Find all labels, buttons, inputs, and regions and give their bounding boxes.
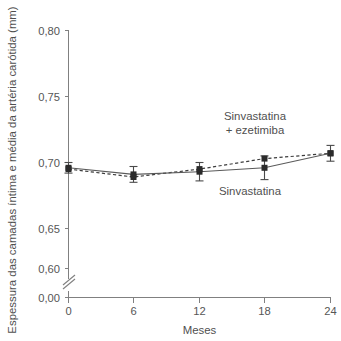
chart-canvas: 0,80 0,75 0,70 0,65 0,60 0,00 0 6 12 18 … [0,0,341,341]
y-tick-label-065: 0,65 [38,223,60,235]
data-point-marker [131,174,137,180]
x-tick-label-12: 12 [193,305,205,317]
x-tick-label-0: 0 [65,305,71,317]
x-tick-label-6: 6 [130,305,136,317]
data-point-marker [328,150,334,156]
chart-figure: 0,80 0,75 0,70 0,65 0,60 0,00 0 6 12 18 … [0,0,341,341]
data-point-marker [262,156,268,162]
y-tick-label-075: 0,75 [38,91,60,103]
x-axis-title: Meses [183,324,217,336]
annotation-sinvastatina: Sinvastatina [219,185,282,197]
annotation-sinvastatina-ezetimiba-line2: + ezetimiba [226,124,285,136]
errorbars-sinvastatina [65,145,335,182]
y-tick-marks [65,31,69,298]
y-tick-label-000: 0,00 [38,292,60,304]
data-point-marker [197,166,203,172]
y-axis-title: Espessura das camadas íntima e média da … [6,6,18,334]
y-tick-label-060: 0,60 [38,263,60,275]
x-tick-label-24: 24 [324,305,336,317]
y-tick-label-070: 0,70 [38,157,60,169]
x-tick-marks [69,298,331,303]
y-tick-label-080: 0,80 [38,25,60,37]
annotation-sinvastatina-ezetimiba-line1: Sinvastatina [224,110,287,122]
data-point-marker [262,165,268,171]
data-point-marker [66,166,72,172]
x-tick-label-18: 18 [258,305,270,317]
